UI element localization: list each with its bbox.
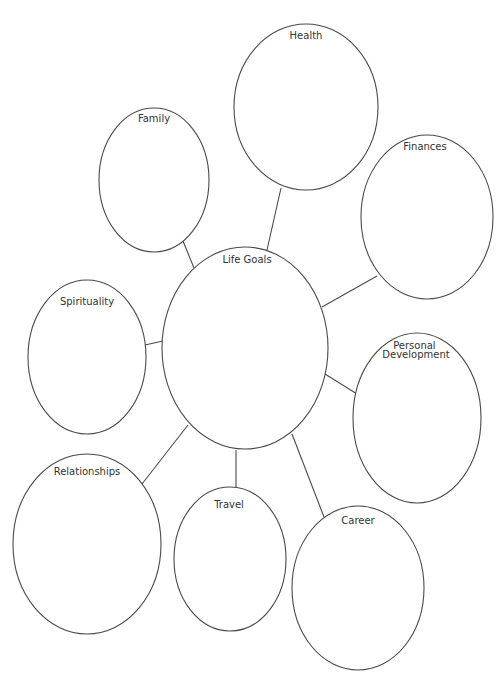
node-family-label: Family <box>138 113 170 124</box>
node-travel[interactable]: Travel <box>174 487 286 631</box>
connector-spirituality <box>145 341 163 345</box>
node-family-shape[interactable] <box>99 108 209 252</box>
node-health[interactable]: Health <box>234 24 378 190</box>
connector-finances <box>322 276 377 307</box>
node-spirituality-label: Spirituality <box>60 296 114 307</box>
node-finances[interactable]: Finances <box>361 135 493 299</box>
node-health-shape[interactable] <box>234 24 378 190</box>
node-relationships-label: Relationships <box>54 466 121 477</box>
connector-relationships <box>142 425 188 484</box>
node-travel-label: Travel <box>213 499 244 510</box>
node-health-label: Health <box>290 30 323 41</box>
node-personal-development-label-line2: Development <box>382 349 449 360</box>
node-relationships-shape[interactable] <box>13 454 161 634</box>
node-spirituality[interactable]: Spirituality <box>28 280 146 434</box>
node-life-goals-shape[interactable] <box>162 247 328 449</box>
node-life-goals[interactable]: Life Goals <box>162 247 328 449</box>
node-finances-label: Finances <box>403 141 446 152</box>
connector-career <box>292 434 324 517</box>
node-career-label: Career <box>341 515 375 526</box>
mind-map-canvas: Health Family Finances Life Goals Spirit… <box>0 0 499 690</box>
node-career[interactable]: Career <box>292 506 424 670</box>
node-family[interactable]: Family <box>99 108 209 252</box>
connector-personal-development <box>325 374 357 394</box>
connector-family <box>183 241 194 268</box>
node-relationships[interactable]: Relationships <box>13 454 161 634</box>
node-personal-development[interactable]: Personal Development <box>353 333 481 503</box>
node-finances-shape[interactable] <box>361 135 493 299</box>
node-career-shape[interactable] <box>292 506 424 670</box>
node-life-goals-label: Life Goals <box>222 254 271 265</box>
connector-health <box>267 188 281 250</box>
